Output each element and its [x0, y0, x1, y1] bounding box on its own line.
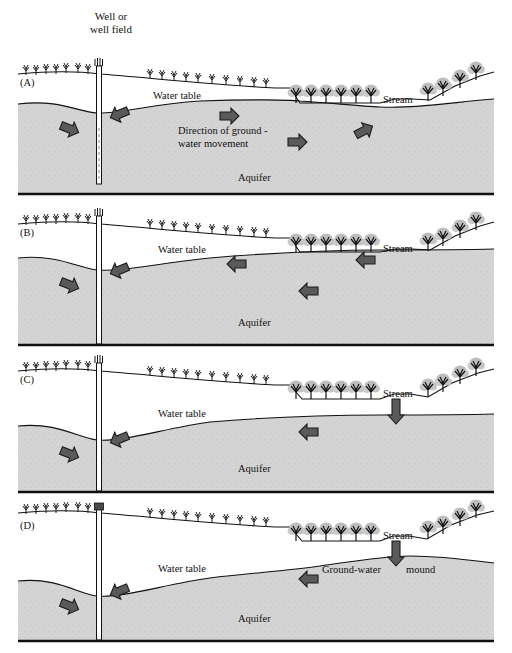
well-casing-C: [95, 355, 103, 491]
well-casing-A: [95, 58, 103, 184]
panel-label-A: (A): [20, 77, 35, 89]
panel-A: Water table Stream Aquifer Direction of …: [18, 58, 494, 194]
water-table-label-B: Water table: [158, 244, 206, 255]
aquifer-label-C: Aquifer: [238, 463, 271, 474]
direction-annotation-line2-A: water movement: [178, 138, 248, 149]
vegetation-upland-right-A: [147, 69, 269, 88]
panel-label-C: (C): [20, 374, 35, 386]
panel-D: Water table Stream Ground-water mound Aq…: [18, 500, 494, 642]
aquifer-label-D: Aquifer: [238, 613, 271, 624]
vegetation-upland-right-C: [147, 366, 269, 385]
panel-label-D: (D): [20, 520, 35, 532]
panel-B: Water table Stream Aquifer (B): [18, 208, 494, 345]
well-caption-line1: Well or: [56, 10, 166, 23]
groundwater-well-stream-figure: Water table Stream Aquifer Direction of …: [0, 0, 512, 653]
stream-label-B: Stream: [383, 243, 413, 254]
aquifer-label-A: Aquifer: [238, 172, 271, 183]
aquifer-body-B: [18, 249, 494, 344]
water-table-label-A: Water table: [153, 90, 201, 101]
vegetation-upland-right-D: [147, 508, 269, 527]
stream-label-C: Stream: [383, 388, 413, 399]
well-casing-B: [95, 208, 103, 344]
panel-label-B: (B): [20, 227, 35, 239]
panel-C: Water table Stream Aquifer (C): [18, 355, 494, 492]
mound-label-2-D: mound: [406, 564, 436, 575]
vegetation-upland-right-B: [147, 219, 269, 238]
water-table-label-C: Water table: [158, 408, 206, 419]
mound-label-D: Ground-water: [322, 564, 381, 575]
direction-annotation-line1-A: Direction of ground -: [178, 125, 268, 136]
well-field-caption: Well or well field: [56, 10, 166, 36]
water-table-label-D: Water table: [158, 563, 206, 574]
stream-label-A: Stream: [383, 94, 413, 105]
stream-label-D: Stream: [383, 530, 413, 541]
well-caption-line2: well field: [56, 23, 166, 36]
aquifer-body-C: [18, 414, 494, 491]
aquifer-label-B: Aquifer: [238, 317, 271, 328]
